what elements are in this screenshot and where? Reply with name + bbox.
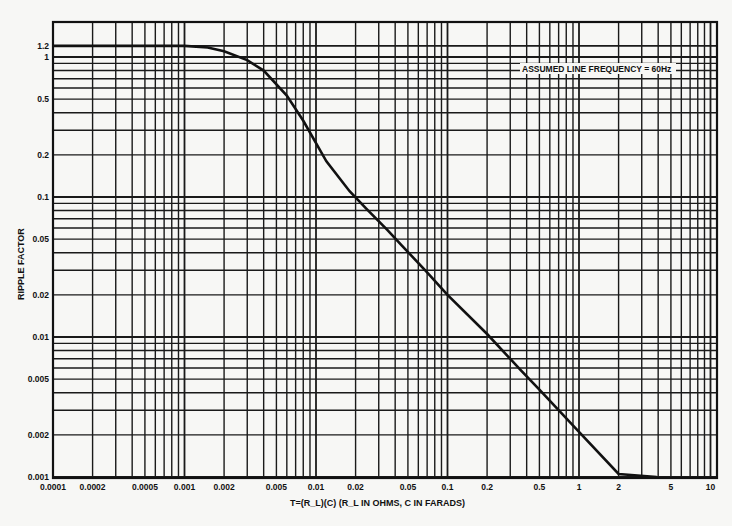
y-tick-label: 0.1 <box>37 192 49 202</box>
y-tick-label: 0.05 <box>32 234 49 244</box>
x-tick-label: 0.0001 <box>40 482 66 492</box>
x-tick-labels: 0.00010.00020.00050.0010.0020.0050.010.0… <box>40 482 715 492</box>
chart-grid <box>53 22 717 478</box>
y-axis-label: RIPPLE FACTOR <box>16 228 26 300</box>
x-tick-label: 5 <box>669 482 674 492</box>
y-tick-label: 0.01 <box>32 332 49 342</box>
x-tick-label: 0.005 <box>266 482 288 492</box>
y-tick-label: 0.2 <box>37 150 49 160</box>
x-tick-label: 1 <box>577 482 582 492</box>
y-tick-label: 0.001 <box>28 472 50 482</box>
annotation-text: ASSUMED LINE FREQUENCY = 60Hz <box>522 64 671 74</box>
x-tick-label: 0.2 <box>481 482 493 492</box>
y-tick-label: 1 <box>44 52 49 62</box>
x-tick-label: 0.02 <box>347 482 364 492</box>
y-tick-label: 1.2 <box>37 41 49 51</box>
x-tick-label: 2 <box>616 482 621 492</box>
y-tick-label: 0.002 <box>28 430 50 440</box>
y-tick-label: 0.5 <box>37 94 49 104</box>
x-tick-label: 0.0002 <box>80 482 106 492</box>
x-tick-label: 0.5 <box>534 482 546 492</box>
x-tick-label: 0.05 <box>400 482 417 492</box>
x-tick-label: 0.002 <box>213 482 235 492</box>
x-tick-label: 0.1 <box>442 482 454 492</box>
y-tick-label: 0.02 <box>32 290 49 300</box>
x-tick-label: 10 <box>706 482 716 492</box>
ripple-factor-chart: 0.00010.00020.00050.0010.0020.0050.010.0… <box>0 0 732 526</box>
x-tick-label: 0.001 <box>174 482 196 492</box>
y-tick-labels: 1.210.50.20.10.050.020.010.0050.0020.001 <box>28 41 50 482</box>
x-tick-label: 0.0005 <box>132 482 158 492</box>
x-axis-label: T=(R_L)(C) (R_L IN OHMS, C IN FARADS) <box>290 498 465 508</box>
y-tick-label: 0.005 <box>28 374 50 384</box>
x-tick-label: 0.01 <box>308 482 325 492</box>
